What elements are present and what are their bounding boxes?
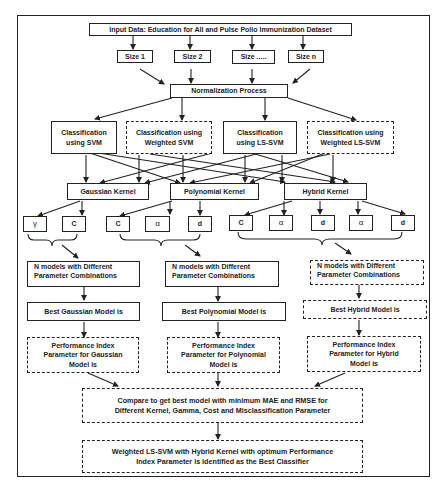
size-label: Size n bbox=[296, 52, 316, 61]
n-models-label: Parameter Combinations bbox=[172, 271, 255, 280]
classifier-weighted-ls-svm-box: Classification using Weighted LS-SVM bbox=[307, 121, 394, 154]
size-box-3: Size ..... bbox=[232, 50, 275, 64]
best-model-label: Best Gaussian Model is bbox=[44, 307, 123, 316]
best-classifier-box: Weighted LS-SVM with Hybrid Kernel with … bbox=[82, 440, 363, 473]
best-model-label: Best Hybrid Model is bbox=[330, 305, 399, 314]
param-alpha-box: α bbox=[269, 215, 293, 231]
performance-label: Performance Index bbox=[332, 340, 395, 349]
performance-label: Model is bbox=[209, 360, 237, 369]
gaussian-kernel-box: Gaussian Kernel bbox=[67, 183, 149, 200]
best-polynomial-model-box: Best Polynomial Model is bbox=[162, 302, 286, 321]
hybrid-kernel-box: Hybrid Kernel bbox=[284, 183, 367, 200]
performance-label: Model is bbox=[69, 360, 97, 369]
param-label: α bbox=[279, 218, 284, 229]
classifier-label: using LS-SVM bbox=[236, 138, 283, 147]
n-models-label: Parameter Combinations bbox=[34, 271, 117, 280]
param-d-box: d bbox=[391, 215, 415, 231]
classifier-label: Weighted SVM bbox=[145, 138, 193, 147]
hybrid-performance-box: Performance Index Parameter for Hybrid M… bbox=[307, 336, 421, 372]
param-c-box: C bbox=[106, 216, 130, 232]
size-label: Size ..... bbox=[241, 52, 267, 61]
polynomial-kernel-box: Polynomial Kernel bbox=[170, 183, 259, 200]
best-model-label: Best Polynomial Model is bbox=[182, 307, 266, 316]
kernel-label: Polynomial Kernel bbox=[184, 187, 245, 196]
performance-label: Performance Index bbox=[192, 341, 255, 350]
param-label: d bbox=[321, 218, 325, 227]
n-models-label: N models with Different bbox=[317, 261, 395, 270]
param-d-box: d bbox=[311, 215, 335, 231]
param-label: C bbox=[115, 219, 120, 228]
kernel-label: Hybrid Kernel bbox=[303, 187, 349, 196]
classifier-ls-svm-box: Classification using LS-SVM bbox=[223, 121, 297, 154]
input-data-label: Input Data: Education for All and Pulse … bbox=[109, 25, 332, 34]
classifier-label: Classification bbox=[237, 128, 283, 137]
polynomial-performance-box: Performance Index Parameter for Polynomi… bbox=[167, 337, 280, 373]
classifier-label: Classification using bbox=[317, 128, 383, 137]
param-alpha-box: α bbox=[349, 215, 373, 231]
best-gaussian-model-box: Best Gaussian Model is bbox=[27, 302, 140, 321]
input-data-box: Input Data: Education for All and Pulse … bbox=[89, 23, 352, 36]
kernel-label: Gaussian Kernel bbox=[80, 187, 135, 196]
size-label: Size 2 bbox=[183, 52, 203, 61]
hybrid-n-models-box: N models with Different Parameter Combin… bbox=[310, 260, 424, 285]
performance-label: Parameter for Gaussian bbox=[44, 350, 123, 359]
classifier-weighted-svm-box: Classification using Weighted SVM bbox=[126, 121, 212, 154]
size-box-1: Size 1 bbox=[117, 50, 153, 63]
size-box-2: Size 2 bbox=[174, 50, 211, 63]
size-label: Size 1 bbox=[125, 52, 145, 61]
param-label: C bbox=[71, 219, 76, 228]
result-label: Weighted LS-SVM with Hybrid Kernel with … bbox=[112, 447, 334, 457]
classifier-label: Classification bbox=[61, 128, 107, 137]
n-models-label: N models with Different bbox=[172, 262, 250, 271]
n-models-label: Parameter Combinations bbox=[317, 270, 400, 279]
compare-label: Different Kernel, Gamma, Cost and Miscla… bbox=[115, 406, 331, 416]
classifier-label: Classification using bbox=[136, 128, 202, 137]
best-hybrid-model-box: Best Hybrid Model is bbox=[303, 300, 427, 319]
result-label: Index Parameter is identified as the Bes… bbox=[136, 457, 309, 467]
performance-label: Parameter for Hybrid bbox=[329, 349, 399, 358]
classifier-svm-box: Classification using SVM bbox=[51, 121, 117, 154]
param-label: γ bbox=[33, 219, 37, 230]
performance-label: Parameter for Polynomial bbox=[181, 350, 266, 359]
performance-label: Model is bbox=[350, 359, 378, 368]
size-box-n: Size n bbox=[288, 50, 324, 63]
gaussian-n-models-box: N models with Different Parameter Combin… bbox=[27, 261, 140, 287]
normalization-box: Normalization Process bbox=[170, 84, 288, 98]
normalization-label: Normalization Process bbox=[191, 86, 266, 95]
param-label: d bbox=[401, 218, 405, 227]
param-d-box: d bbox=[188, 216, 212, 232]
param-gamma-box: γ bbox=[23, 216, 47, 232]
param-label: α bbox=[155, 219, 160, 230]
performance-label: Performance Index bbox=[51, 341, 114, 350]
compare-label: Compare to get best model with minimum M… bbox=[117, 396, 327, 406]
classifier-label: using SVM bbox=[66, 138, 102, 147]
compare-box: Compare to get best model with minimum M… bbox=[82, 388, 363, 423]
gaussian-performance-box: Performance Index Parameter for Gaussian… bbox=[27, 337, 139, 373]
param-c-box: C bbox=[62, 216, 86, 232]
param-label: d bbox=[198, 219, 202, 228]
param-alpha-box: α bbox=[145, 216, 170, 232]
n-models-label: N models with Different bbox=[34, 262, 112, 271]
param-label: α bbox=[359, 218, 364, 229]
param-label: C bbox=[238, 218, 243, 227]
param-c-box: C bbox=[229, 215, 253, 231]
classifier-label: Weighted LS-SVM bbox=[321, 138, 381, 147]
polynomial-n-models-box: N models with Different Parameter Combin… bbox=[165, 261, 279, 287]
